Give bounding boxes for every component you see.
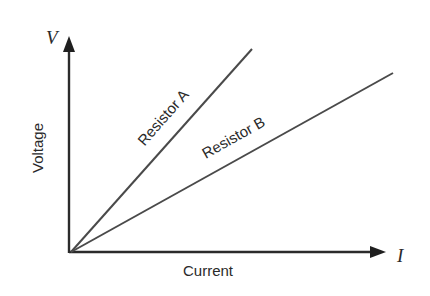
resistor-b-line <box>71 73 393 252</box>
x-axis-symbol: I <box>396 245 405 266</box>
y-axis <box>63 36 75 253</box>
y-axis-title: Voltage <box>29 123 46 173</box>
y-axis-arrow-icon <box>63 36 75 52</box>
x-axis-arrow-icon <box>370 246 386 258</box>
resistor-b-label: Resistor B <box>199 113 268 162</box>
voltage-current-diagram: V I Voltage Current Resistor A Resistor … <box>0 0 430 296</box>
x-axis-title: Current <box>183 262 234 279</box>
x-axis <box>69 246 386 258</box>
resistor-a-label: Resistor A <box>134 86 192 149</box>
y-axis-symbol: V <box>46 27 60 48</box>
